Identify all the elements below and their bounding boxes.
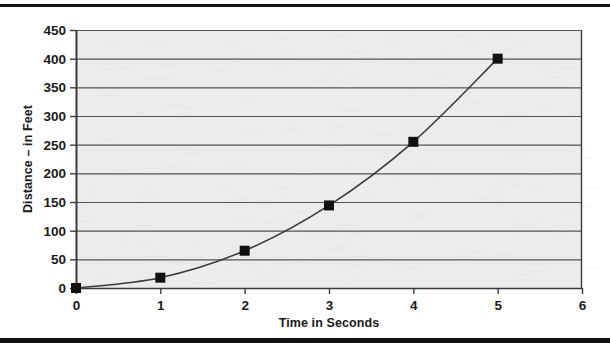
- data-point-marker: [408, 137, 418, 147]
- y-axis-title: Distance – in Feet: [21, 69, 35, 249]
- distance-time-line-chart: 0501001502002503003504004500123456: [0, 0, 610, 346]
- x-axis-title: Time in Seconds: [76, 316, 582, 330]
- chart-plot-wrapper: 0501001502002503003504004500123456 Dista…: [0, 0, 610, 346]
- y-tick-label: 400: [43, 52, 66, 67]
- y-tick-label: 250: [43, 138, 66, 153]
- figure-container: 0501001502002503003504004500123456 Dista…: [0, 0, 610, 346]
- x-tick-label: 4: [410, 298, 418, 313]
- y-axis-ticks: 050100150200250300350400450: [43, 23, 76, 296]
- data-point-marker: [71, 283, 81, 293]
- y-tick-label: 150: [43, 195, 66, 210]
- y-tick-label: 350: [43, 80, 66, 95]
- y-tick-label: 50: [51, 252, 66, 267]
- x-tick-label: 2: [241, 298, 249, 313]
- x-tick-label: 1: [157, 298, 165, 313]
- data-point-marker: [493, 54, 503, 64]
- data-point-marker: [324, 200, 334, 210]
- x-axis-ticks: 0123456: [73, 288, 587, 313]
- x-tick-label: 6: [579, 298, 587, 313]
- x-tick-label: 5: [494, 298, 502, 313]
- y-tick-label: 0: [58, 281, 66, 296]
- x-tick-label: 3: [326, 298, 334, 313]
- data-point-marker: [240, 246, 250, 256]
- x-tick-label: 0: [73, 298, 81, 313]
- y-tick-label: 200: [43, 166, 66, 181]
- data-point-marker: [155, 273, 165, 283]
- y-tick-label: 100: [43, 224, 66, 239]
- y-tick-label: 300: [43, 109, 66, 124]
- y-tick-label: 450: [43, 23, 66, 38]
